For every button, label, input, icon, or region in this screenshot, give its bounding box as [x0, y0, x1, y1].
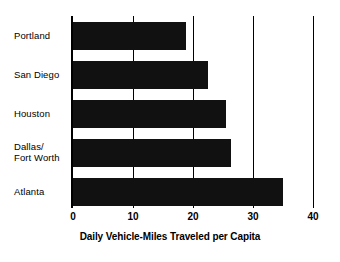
- category-label-text: Houston: [14, 108, 50, 119]
- bar-portland: [73, 22, 186, 50]
- plot-area: [73, 16, 313, 208]
- x-tick-label-30: 30: [233, 210, 273, 223]
- bars-layer: [73, 16, 313, 208]
- category-label-houston: Houston: [0, 108, 64, 119]
- bar-atlanta: [73, 178, 283, 206]
- category-label-text-line2: Fort Worth: [14, 152, 60, 163]
- x-tick-label-20: 20: [173, 210, 213, 223]
- category-axis-labels: Portland San Diego Houston Dallas/ Fort …: [0, 16, 70, 208]
- bar-houston: [73, 100, 226, 128]
- x-tick-label-40: 40: [293, 210, 333, 223]
- category-label-text-line1: Dallas/: [14, 141, 44, 152]
- category-label-portland: Portland: [0, 30, 64, 41]
- category-label-text: San Diego: [14, 69, 59, 80]
- category-label-dallas-fort-worth: Dallas/ Fort Worth: [0, 141, 64, 163]
- bar-san-diego: [73, 61, 208, 89]
- value-axis-tick-labels: 0 10 20 30 40: [0, 210, 340, 224]
- x-axis-title: Daily Vehicle-Miles Traveled per Capita: [0, 231, 340, 242]
- category-label-text: Portland: [14, 30, 50, 41]
- x-tick-label-10: 10: [113, 210, 153, 223]
- x-tick-label-0: 0: [53, 210, 93, 223]
- gridline-40: [313, 16, 314, 208]
- category-label-atlanta: Atlanta: [0, 186, 64, 197]
- category-label-san-diego: San Diego: [0, 69, 64, 80]
- category-label-text: Atlanta: [14, 186, 44, 197]
- bar-dallas-fort-worth: [73, 139, 231, 167]
- bar-chart-figure: Portland San Diego Houston Dallas/ Fort …: [0, 0, 340, 262]
